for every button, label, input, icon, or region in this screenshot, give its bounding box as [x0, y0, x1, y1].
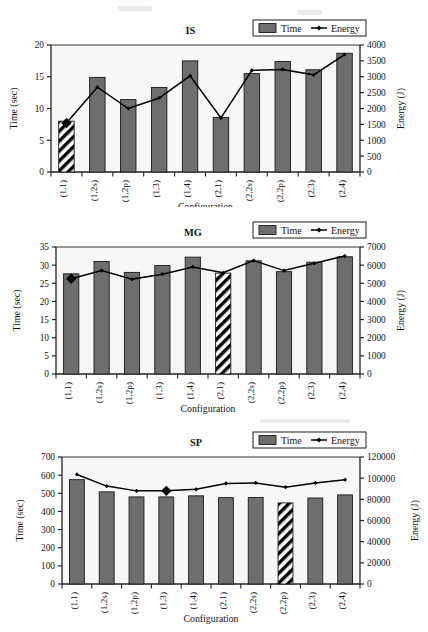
right-axis-tick-label: 100000 [367, 474, 395, 484]
legend: TimeEnergy [253, 222, 366, 238]
right-axis-tick-label: 40000 [367, 537, 391, 547]
legend-time-swatch-icon [259, 226, 276, 235]
right-axis-tick-label: 2500 [367, 88, 386, 98]
bar [129, 497, 144, 584]
legend: TimeEnergy [253, 20, 366, 36]
left-axis-tick-label: 35 [40, 242, 50, 252]
bar [185, 257, 200, 374]
left-axis-tick-label: 25 [40, 279, 50, 289]
bar [94, 262, 109, 374]
right-axis-title: Energy (J) [395, 290, 407, 331]
bar [337, 53, 352, 172]
left-axis-title: Time (sec) [8, 88, 20, 130]
left-axis-tick-label: 300 [41, 525, 55, 535]
x-axis-category-label: (2,3) [307, 592, 317, 610]
left-axis-tick-label: 600 [41, 471, 55, 481]
right-axis-tick-label: 0 [367, 579, 372, 589]
x-axis-category-label: (2,2s) [248, 592, 258, 613]
x-axis-category-label: (1,3) [158, 592, 168, 610]
right-axis-tick-label: 500 [367, 152, 381, 162]
x-axis-category-label: (2,2s) [244, 180, 254, 201]
right-axis-tick-label: 7000 [367, 242, 386, 252]
right-axis-title: Energy (J) [395, 88, 407, 129]
x-axis-category-label: (2,4) [337, 180, 347, 198]
right-axis-tick-label: 2000 [367, 104, 386, 114]
chart-svg-mg: 05101520253035Time (sec)0100020003000400… [0, 207, 428, 414]
bar [99, 492, 114, 584]
left-axis-tick-label: 400 [41, 507, 55, 517]
right-axis-tick-label: 3000 [367, 72, 386, 82]
bar [218, 498, 233, 584]
right-axis-tick-label: 6000 [367, 261, 386, 271]
bar [276, 272, 291, 374]
left-axis-tick-label: 100 [41, 561, 55, 571]
left-axis-tick-label: 0 [39, 167, 44, 177]
chart-panel-sp: 0100200300400500600700Time (sec)02000040… [0, 414, 428, 626]
x-axis-category-label: (2,2p) [278, 592, 288, 614]
x-axis-category-label: (2,4) [337, 592, 347, 610]
chart-title: MG [184, 227, 202, 238]
chart-title: SP [190, 437, 203, 448]
bar [155, 266, 170, 374]
bar [306, 70, 321, 172]
bar [308, 498, 323, 584]
x-axis-category-label: (1,2s) [99, 592, 109, 613]
right-axis-tick-label: 4000 [367, 40, 386, 50]
bar-highlighted [278, 503, 293, 584]
x-axis-category-label: (2,1) [215, 382, 225, 400]
x-axis-category-label: (2,1) [213, 180, 223, 198]
x-axis-category-label: (1,3) [154, 382, 164, 400]
x-axis-category-label: (1,2p) [129, 592, 139, 614]
left-axis-tick-label: 700 [41, 452, 55, 462]
left-axis-tick-label: 15 [40, 315, 50, 325]
bar [124, 272, 139, 374]
right-axis-tick-label: 3500 [367, 56, 386, 66]
right-axis-tick-label: 1500 [367, 120, 386, 130]
x-axis-category-label: (2,2s) [246, 382, 256, 403]
bar-highlighted [59, 121, 74, 172]
right-axis-tick-label: 1000 [367, 136, 386, 146]
bar [248, 497, 263, 584]
bar [159, 497, 174, 584]
left-axis-tick-label: 10 [35, 104, 45, 114]
left-axis-tick-label: 0 [50, 579, 55, 589]
x-axis-category-label: (2,3) [306, 382, 316, 400]
left-axis-tick-label: 500 [41, 489, 55, 499]
left-axis-tick-label: 30 [40, 261, 50, 271]
x-axis-category-label: (1,2p) [124, 382, 134, 404]
legend-energy-label: Energy [331, 225, 360, 236]
x-axis-category-label: (1,2s) [94, 382, 104, 403]
right-axis-title: Energy (J) [409, 500, 421, 541]
right-axis-tick-label: 120000 [367, 452, 395, 462]
x-axis-category-label: (1,2p) [120, 180, 130, 202]
legend: TimeEnergy [253, 432, 366, 448]
left-axis-tick-label: 20 [35, 40, 45, 50]
x-axis-category-label: (1,1) [58, 180, 68, 198]
left-axis-tick-label: 5 [44, 351, 49, 361]
bar [244, 74, 259, 172]
right-axis-tick-label: 3000 [367, 315, 386, 325]
right-axis-tick-label: 0 [367, 167, 372, 177]
bar [64, 274, 79, 374]
chart-title: IS [186, 25, 196, 36]
left-axis-tick-label: 5 [39, 136, 44, 146]
left-axis-tick-label: 20 [40, 297, 50, 307]
right-axis-tick-label: 5000 [367, 279, 386, 289]
right-axis-tick-label: 4000 [367, 297, 386, 307]
bar [246, 261, 261, 374]
right-axis-tick-label: 80000 [367, 495, 391, 505]
chart-panel-is: 05101520Time (sec)0500100015002000250030… [0, 0, 428, 207]
x-axis-category-label: (1,1) [69, 592, 79, 610]
legend-time-label: Time [281, 225, 302, 236]
left-axis-tick-label: 15 [35, 72, 45, 82]
chart-panel-mg: 05101520253035Time (sec)0100020003000400… [0, 207, 428, 414]
x-axis-category-label: (2,4) [337, 382, 347, 400]
left-axis-title: Time (sec) [14, 500, 26, 542]
chart-svg-is: 05101520Time (sec)0500100015002000250030… [0, 0, 428, 207]
x-axis-title: Configuration [184, 613, 239, 624]
chart-svg-sp: 0100200300400500600700Time (sec)02000040… [0, 414, 428, 626]
bar [213, 117, 228, 172]
legend-time-label: Time [281, 23, 302, 34]
x-axis-category-label: (2,2p) [276, 382, 286, 404]
x-axis-category-label: (2,3) [306, 180, 316, 198]
